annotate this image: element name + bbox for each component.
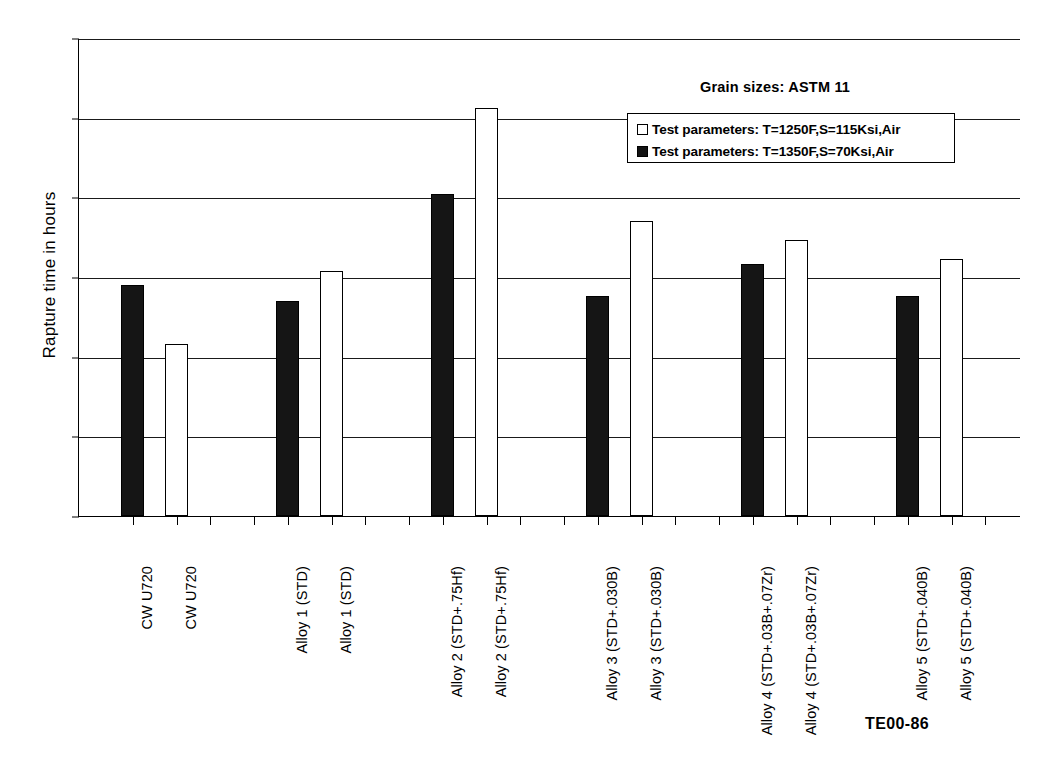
figure-code: TE00-86 bbox=[865, 715, 929, 733]
x-tick-gap-7 bbox=[719, 517, 720, 525]
x-tick-gap-5 bbox=[564, 517, 565, 525]
x-tick-mark-10 bbox=[908, 517, 909, 525]
gridline-100 bbox=[79, 358, 1020, 359]
bar-10[interactable] bbox=[896, 296, 919, 516]
x-axis-label-4: Alloy 2 (STD+.75Hf) bbox=[449, 566, 465, 697]
chart-page: Rapture time in hours 050100150200250300… bbox=[0, 0, 1050, 772]
legend-swatch-dark-icon bbox=[637, 146, 648, 157]
y-tick-mark-150 bbox=[72, 278, 79, 279]
y-tick-mark-300 bbox=[72, 39, 79, 40]
bar-2[interactable] bbox=[276, 301, 299, 516]
y-tick-mark-0 bbox=[72, 517, 79, 518]
x-tick-mark-7 bbox=[642, 517, 643, 525]
x-axis-label-1: CW U720 bbox=[183, 566, 199, 630]
x-tick-mark-2 bbox=[288, 517, 289, 525]
y-tick-mark-50 bbox=[72, 437, 79, 438]
x-tick-mark-4 bbox=[443, 517, 444, 525]
y-tick-mark-200 bbox=[72, 198, 79, 199]
x-tick-mark-5 bbox=[487, 517, 488, 525]
bar-0[interactable] bbox=[121, 285, 144, 516]
bar-7[interactable] bbox=[630, 221, 653, 516]
bar-9[interactable] bbox=[785, 240, 808, 516]
x-tick-mark-11 bbox=[952, 517, 953, 525]
x-axis-label-3: Alloy 1 (STD) bbox=[338, 566, 354, 654]
chart-legend: Test parameters: T=1250F,S=115Ksi,AirTes… bbox=[627, 113, 955, 163]
x-tick-gap-10 bbox=[985, 517, 986, 525]
legend-entry-0[interactable]: Test parameters: T=1250F,S=115Ksi,Air bbox=[637, 119, 954, 139]
bar-11[interactable] bbox=[940, 259, 963, 516]
legend-label-1: Test parameters: T=1350F,S=70Ksi,Air bbox=[652, 144, 894, 159]
x-axis-label-6: Alloy 3 (STD+.030B) bbox=[604, 566, 620, 700]
x-tick-mark-9 bbox=[797, 517, 798, 525]
x-axis-label-2: Alloy 1 (STD) bbox=[294, 566, 310, 654]
x-tick-gap-0 bbox=[210, 517, 211, 525]
x-tick-gap-4 bbox=[520, 517, 521, 525]
gridline-50 bbox=[79, 437, 1020, 438]
x-tick-gap-8 bbox=[830, 517, 831, 525]
x-axis-label-11: Alloy 5 (STD+.040B) bbox=[958, 566, 974, 700]
x-axis-label-9: Alloy 4 (STD+.03B+.07Zr) bbox=[803, 566, 819, 735]
x-tick-mark-8 bbox=[753, 517, 754, 525]
bar-6[interactable] bbox=[586, 296, 609, 516]
x-tick-gap-1 bbox=[254, 517, 255, 525]
bar-8[interactable] bbox=[741, 264, 764, 516]
x-axis-label-10: Alloy 5 (STD+.040B) bbox=[914, 566, 930, 700]
bar-5[interactable] bbox=[475, 108, 498, 516]
gridline-200 bbox=[79, 198, 1020, 199]
gridline-300 bbox=[79, 39, 1020, 40]
x-axis-label-0: CW U720 bbox=[139, 566, 155, 630]
legend-swatch-light-icon bbox=[637, 124, 648, 135]
x-tick-gap-9 bbox=[874, 517, 875, 525]
legend-label-0: Test parameters: T=1250F,S=115Ksi,Air bbox=[652, 122, 900, 137]
y-tick-mark-250 bbox=[72, 118, 79, 119]
x-tick-gap-2 bbox=[365, 517, 366, 525]
x-tick-mark-6 bbox=[598, 517, 599, 525]
x-axis-label-8: Alloy 4 (STD+.03B+.07Zr) bbox=[759, 566, 775, 735]
bar-3[interactable] bbox=[320, 271, 343, 516]
grain-sizes-note: Grain sizes: ASTM 11 bbox=[700, 79, 850, 95]
bar-4[interactable] bbox=[431, 194, 454, 516]
plot-area: 050100150200250300CW U720CW U720Alloy 1 … bbox=[78, 39, 1020, 517]
bar-1[interactable] bbox=[165, 344, 188, 516]
y-tick-mark-100 bbox=[72, 357, 79, 358]
x-tick-mark-0 bbox=[133, 517, 134, 525]
y-axis-title: Rapture time in hours bbox=[40, 95, 60, 455]
x-tick-mark-1 bbox=[177, 517, 178, 525]
legend-entry-1[interactable]: Test parameters: T=1350F,S=70Ksi,Air bbox=[637, 141, 954, 161]
x-tick-mark-3 bbox=[332, 517, 333, 525]
x-axis-label-7: Alloy 3 (STD+.030B) bbox=[648, 566, 664, 700]
gridline-150 bbox=[79, 278, 1020, 279]
x-tick-gap-6 bbox=[675, 517, 676, 525]
x-tick-gap-3 bbox=[409, 517, 410, 525]
x-axis-label-5: Alloy 2 (STD+.75Hf) bbox=[493, 566, 509, 697]
